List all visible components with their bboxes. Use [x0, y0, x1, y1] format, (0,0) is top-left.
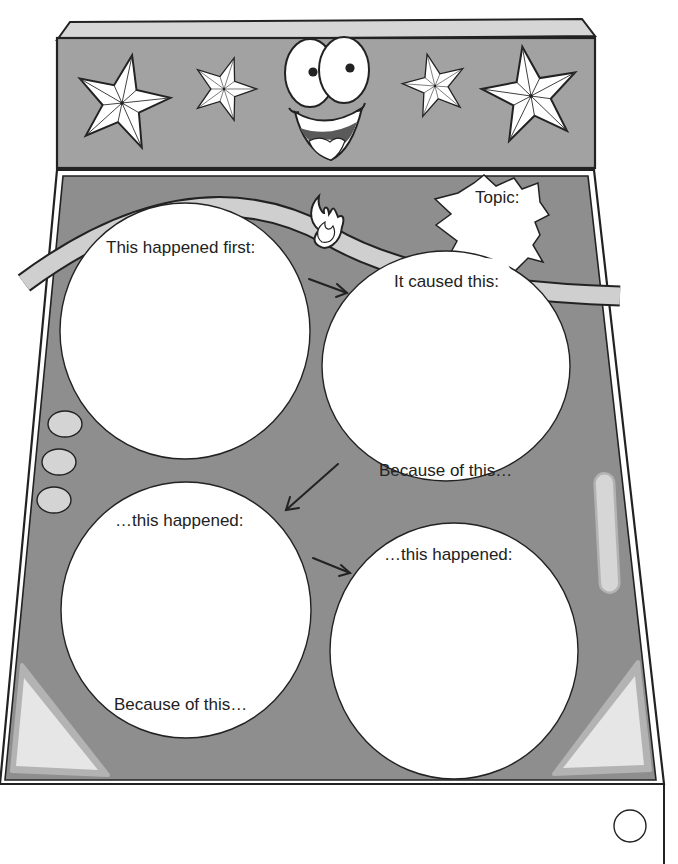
- box-caused-heading: It caused this:: [394, 273, 499, 290]
- box-first-heading: This happened first:: [106, 239, 255, 256]
- box-then-2-heading: …this happened:: [384, 546, 513, 563]
- pinball-organizer: Topic: This happened first: It caused th…: [0, 0, 678, 864]
- box-then-1-heading: …this happened:: [115, 512, 244, 529]
- box-caused-footer: Because of this…: [379, 462, 512, 479]
- topic-label: Topic:: [475, 189, 519, 206]
- coin-slot-circle: [614, 810, 646, 842]
- box-then-1-footer: Because of this…: [114, 696, 247, 713]
